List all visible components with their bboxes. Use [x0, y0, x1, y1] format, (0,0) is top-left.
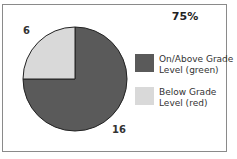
- legend-item-below-grade: Below Grade Level (red): [135, 87, 230, 107]
- pie-slice-below-grade: [23, 27, 75, 79]
- legend-swatch-light: [135, 87, 154, 105]
- percent-title: 75%: [160, 10, 210, 23]
- data-label-above-grade: 16: [112, 124, 126, 135]
- legend-item-above-grade: On/Above Grade Level (green): [135, 54, 230, 74]
- legend-label: On/Above Grade Level (green): [159, 54, 234, 76]
- legend-label: Below Grade Level (red): [159, 87, 234, 109]
- legend-swatch-dark: [135, 54, 154, 72]
- data-label-below-grade: 6: [23, 25, 30, 36]
- pie-chart: [0, 0, 237, 159]
